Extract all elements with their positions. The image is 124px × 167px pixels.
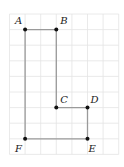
vertex-dot-d — [86, 106, 90, 110]
vertex-label-e: E — [88, 143, 97, 154]
vertex-label-f: F — [14, 143, 23, 154]
grid-lines — [10, 14, 119, 154]
vertex-dot-a — [23, 28, 27, 32]
vertex-dot-e — [86, 137, 90, 141]
vertex-dot-c — [54, 106, 58, 110]
grid-figure: ABCDEF — [0, 0, 124, 167]
vertex-label-a: A — [14, 15, 22, 26]
vertex-label-d: D — [90, 94, 99, 105]
vertex-label-b: B — [59, 15, 67, 26]
vertex-dot-b — [54, 28, 58, 32]
vertex-dot-f — [23, 137, 27, 141]
vertex-label-c: C — [60, 94, 68, 105]
